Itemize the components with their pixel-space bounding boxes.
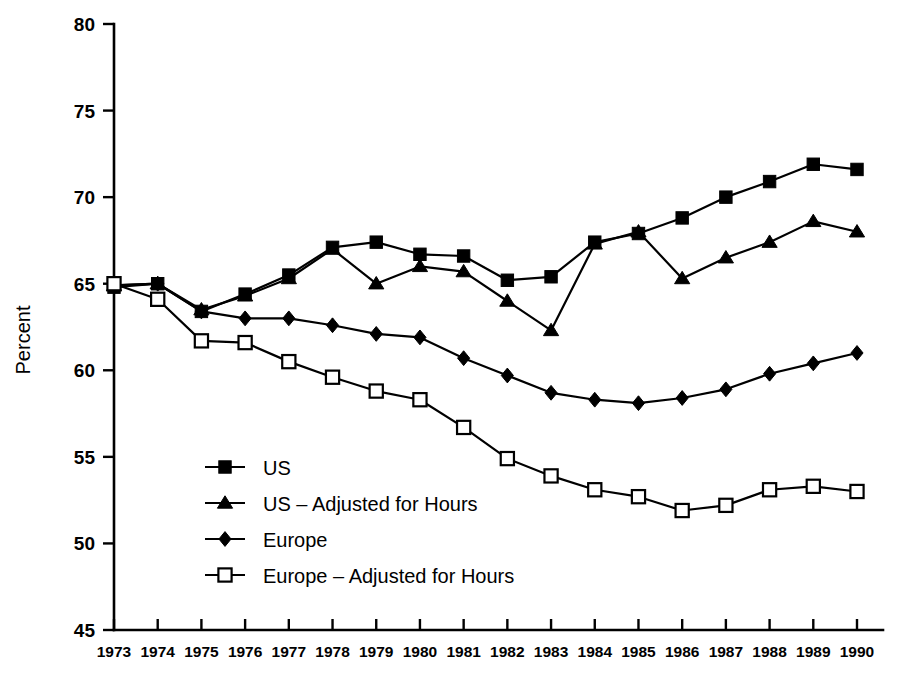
x-tick-label: 1990: [840, 643, 874, 660]
x-tick-label: 1986: [665, 643, 700, 660]
marker-open-square: [239, 336, 252, 349]
marker-open-square: [195, 334, 208, 347]
marker-open-square: [850, 485, 863, 498]
y-tick-label: 65: [74, 274, 96, 295]
line-chart: 4550556065707580 19731974197519761977197…: [0, 0, 911, 694]
x-tick-label: 1984: [578, 643, 613, 660]
legend-label: US: [263, 457, 291, 479]
y-tick-label: 80: [74, 14, 95, 35]
marker-filled-square: [763, 175, 775, 187]
marker-open-square: [107, 277, 120, 290]
marker-open-square: [544, 469, 557, 482]
marker-open-square: [413, 393, 426, 406]
marker-filled-square: [457, 250, 469, 262]
x-tick-label: 1989: [796, 643, 831, 660]
x-tick-label: 1978: [315, 643, 350, 660]
x-tick-label: 1975: [184, 643, 219, 660]
marker-filled-square: [676, 212, 688, 224]
y-tick-label: 50: [74, 533, 95, 554]
y-tick-label: 70: [74, 187, 95, 208]
marker-open-square: [282, 355, 295, 368]
legend-label: Europe – Adjusted for Hours: [263, 565, 514, 587]
y-tick-label: 55: [74, 447, 96, 468]
y-tick-label: 60: [74, 360, 95, 381]
x-tick-label: 1974: [140, 643, 175, 660]
marker-open-square: [326, 371, 339, 384]
legend-label: Europe: [263, 529, 328, 551]
x-tick-label: 1980: [403, 643, 437, 660]
marker-open-square: [632, 490, 645, 503]
marker-filled-square: [219, 461, 231, 473]
x-tick-label: 1985: [621, 643, 656, 660]
marker-filled-square: [370, 236, 382, 248]
y-tick-label: 75: [74, 101, 96, 122]
marker-open-square: [807, 480, 820, 493]
marker-open-square: [151, 293, 164, 306]
x-tick-label: 1973: [97, 643, 132, 660]
marker-open-square: [676, 504, 689, 517]
y-tick-label: 45: [74, 620, 96, 641]
legend-label: US – Adjusted for Hours: [263, 493, 478, 515]
marker-open-square: [501, 452, 514, 465]
marker-open-square: [457, 421, 470, 434]
marker-open-square: [588, 483, 601, 496]
marker-open-square: [218, 568, 231, 581]
chart-background: [0, 0, 911, 694]
marker-open-square: [370, 384, 383, 397]
x-tick-label: 1982: [490, 643, 524, 660]
marker-open-square: [719, 499, 732, 512]
x-tick-label: 1976: [228, 643, 263, 660]
x-tick-label: 1977: [272, 643, 306, 660]
y-axis-title: Percent: [12, 305, 34, 374]
x-tick-label: 1988: [752, 643, 787, 660]
marker-filled-square: [501, 274, 513, 286]
marker-filled-square: [720, 191, 732, 203]
marker-open-square: [763, 483, 776, 496]
marker-filled-square: [807, 158, 819, 170]
x-tick-label: 1983: [534, 643, 569, 660]
marker-filled-square: [851, 163, 863, 175]
x-tick-label: 1979: [359, 643, 394, 660]
x-tick-label: 1981: [446, 643, 481, 660]
chart-container: 4550556065707580 19731974197519761977197…: [0, 0, 911, 694]
marker-filled-square: [545, 271, 557, 283]
x-tick-label: 1987: [709, 643, 743, 660]
